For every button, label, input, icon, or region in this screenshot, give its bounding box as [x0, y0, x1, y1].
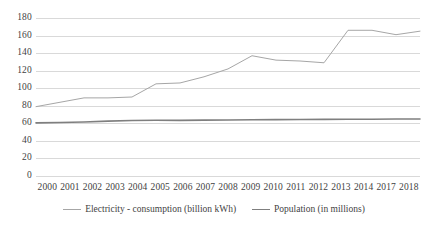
y-tick-label: 140 — [0, 48, 32, 58]
legend-item-population[interactable]: Population (in millions) — [252, 204, 365, 215]
x-tick-label: 2003 — [104, 181, 127, 195]
y-tick-label: 100 — [0, 83, 32, 93]
x-tick-label: 2014 — [352, 181, 375, 195]
y-tick-label: 20 — [0, 153, 32, 163]
legend-label-electricity: Electricity - consumption (billion kWh) — [85, 204, 236, 215]
x-tick-label: 2004 — [126, 181, 149, 195]
x-tick-label: 2001 — [59, 181, 82, 195]
legend-item-electricity[interactable]: Electricity - consumption (billion kWh) — [63, 204, 236, 215]
series-line-population — [36, 119, 420, 123]
plot-area — [36, 18, 420, 176]
x-tick-label: 2008 — [217, 181, 240, 195]
x-axis: 2000200120022003200420052006200720082009… — [36, 181, 420, 195]
gridline — [36, 176, 420, 177]
legend-swatch-icon-electricity — [63, 209, 81, 210]
y-tick-label: 0 — [0, 171, 32, 181]
x-tick-label: 2018 — [398, 181, 421, 195]
line-chart: 180160140120100806040200 200020012002200… — [0, 0, 428, 228]
y-tick-label: 180 — [0, 13, 32, 23]
legend-swatch-icon-population — [252, 209, 270, 210]
series-line-electricity — [36, 30, 420, 106]
y-tick-label: 120 — [0, 66, 32, 76]
y-tick-label: 160 — [0, 31, 32, 41]
y-axis: 180160140120100806040200 — [0, 0, 32, 228]
x-tick-label: 2009 — [239, 181, 262, 195]
x-tick-label: 2013 — [330, 181, 353, 195]
x-tick-label: 2000 — [36, 181, 59, 195]
x-tick-label: 2012 — [307, 181, 330, 195]
x-tick-label: 2002 — [81, 181, 104, 195]
y-tick-label: 40 — [0, 136, 32, 146]
legend-label-population: Population (in millions) — [274, 204, 365, 215]
x-tick-label: 2010 — [262, 181, 285, 195]
x-tick-label: 2007 — [194, 181, 217, 195]
x-tick-label: 2017 — [375, 181, 398, 195]
x-tick-label: 2006 — [172, 181, 195, 195]
series-layer — [36, 18, 420, 176]
y-tick-label: 80 — [0, 101, 32, 111]
y-tick-label: 60 — [0, 118, 32, 128]
x-tick-label: 2011 — [285, 181, 308, 195]
chart-legend: Electricity - consumption (billion kWh) … — [0, 200, 428, 218]
x-tick-label: 2005 — [149, 181, 172, 195]
